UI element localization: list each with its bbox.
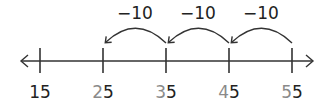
jump-label-55-45: −10	[243, 3, 279, 23]
jump-arcs	[106, 28, 292, 43]
jump-labels: −10 −10 −10	[117, 3, 279, 23]
tick-label-15: 15	[29, 82, 51, 102]
tick-label-45: 45	[218, 82, 240, 102]
axis	[21, 55, 313, 67]
jump-arc-55-45	[232, 28, 292, 43]
jump-arc-35-25	[106, 28, 166, 43]
tick-label-55: 55	[281, 82, 303, 102]
number-line-diagram: 15 25 35 45 55 −10 −10 −10	[0, 0, 335, 112]
tick-label-25: 25	[92, 82, 114, 102]
jump-arc-45-35	[169, 28, 229, 43]
jump-label-35-25: −10	[117, 3, 153, 23]
tick-label-35: 35	[155, 82, 177, 102]
tick-labels: 15 25 35 45 55	[29, 82, 303, 102]
jump-label-45-35: −10	[180, 3, 216, 23]
